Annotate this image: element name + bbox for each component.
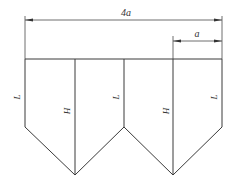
middle-edge-label: L bbox=[111, 94, 121, 100]
total-width-dimension: 4a bbox=[25, 7, 222, 59]
development-outline bbox=[25, 59, 222, 175]
arrowhead-a-right-icon bbox=[214, 40, 222, 43]
edge-labels: L H L H L bbox=[12, 94, 219, 115]
left-edge-label: L bbox=[12, 94, 22, 100]
total-width-label: 4a bbox=[121, 7, 131, 18]
fold-2-label: H bbox=[161, 107, 171, 115]
panel-width-label: a bbox=[195, 28, 200, 39]
panel-width-dimension: a bbox=[173, 28, 222, 59]
pointed-bottom-edge bbox=[25, 127, 222, 175]
development-diagram: 4a a L H L H L bbox=[0, 0, 235, 191]
arrowhead-left-icon bbox=[25, 19, 33, 22]
fold-1-label: H bbox=[62, 107, 72, 115]
arrowhead-a-left-icon bbox=[173, 40, 181, 43]
right-edge-label: L bbox=[209, 94, 219, 100]
arrowhead-right-icon bbox=[214, 19, 222, 22]
